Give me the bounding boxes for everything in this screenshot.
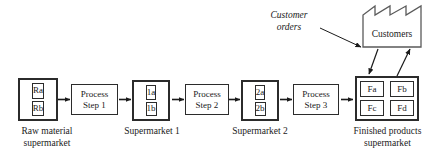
supermarket-1-cell-1b[interactable]: 1b [146,102,157,117]
customers-label[interactable]: Customers [363,30,421,40]
shipment-up-arrow [397,49,410,76]
finished-products-supermarket-caption: Finished products supermarket [332,126,443,150]
supermarket-2-cell-2a[interactable]: 2a [255,85,266,100]
process-step-1-line2: Step 1 [81,100,109,110]
finished-cell-fa[interactable]: Fa [360,81,384,97]
finished-products-grid: Fa Fb Fc Fd [360,81,414,116]
raw-material-supermarket[interactable]: Ra Rb [18,78,58,121]
process-step-1-line1: Process [81,89,109,99]
supermarket-1[interactable]: 1a 1b [132,80,170,121]
process-step-2-line1: Process [193,89,221,99]
customers-factory-shape [363,6,421,47]
supermarket-2-caption: Supermarket 2 [212,126,308,138]
supermarket-2[interactable]: 2a 2b [241,80,279,121]
supermarket-1-cell-1a[interactable]: 1a [146,85,157,100]
process-step-1[interactable]: Process Step 1 [71,84,118,115]
finished-cell-fc[interactable]: Fc [360,100,384,116]
process-step-2-line2: Step 2 [193,100,221,110]
diagram-canvas: Ra Rb Raw material supermarket Process S… [0,0,443,166]
raw-material-supermarket-caption: Raw material supermarket [0,126,94,150]
raw-material-cell-ra[interactable]: Ra [32,83,44,99]
process-step-3-line2: Step 3 [302,100,330,110]
supermarket-2-cell-2b[interactable]: 2b [255,102,266,117]
demand-down-arrow [369,49,378,74]
supermarket-1-caption: Supermarket 1 [104,126,200,138]
finished-products-supermarket[interactable]: Fa Fb Fc Fd [355,76,419,121]
finished-cell-fd[interactable]: Fd [390,100,414,116]
process-step-3-line1: Process [302,89,330,99]
customer-orders-annotation: Customer orders [258,10,320,34]
process-step-3[interactable]: Process Step 3 [293,84,339,115]
raw-material-cell-rb[interactable]: Rb [32,101,45,117]
process-step-2[interactable]: Process Step 2 [185,84,229,115]
customer-orders-arrow [320,28,361,47]
finished-cell-fb[interactable]: Fb [390,81,414,97]
